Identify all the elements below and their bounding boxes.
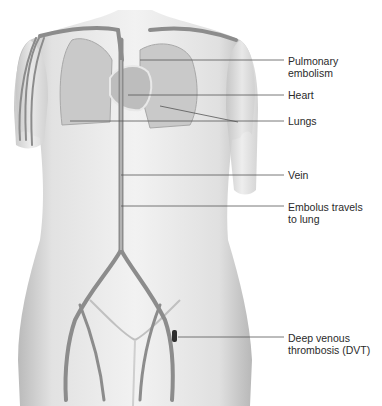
label-vein: Vein	[288, 169, 308, 181]
label-lungs: Lungs	[288, 115, 317, 127]
label-pulmonary-embolism: Pulmonary embolism	[288, 55, 338, 79]
label-dvt: Deep venous thrombosis (DVT)	[288, 332, 370, 356]
label-heart: Heart	[288, 89, 314, 101]
dvt-clot	[172, 330, 177, 342]
heart	[110, 66, 151, 110]
label-embolus-travels: Embolus travels to lung	[288, 201, 363, 225]
